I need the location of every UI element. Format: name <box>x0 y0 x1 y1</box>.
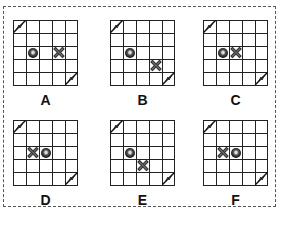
x-mark-icon <box>52 46 65 59</box>
lightning-icon <box>255 172 268 185</box>
x-mark-icon <box>136 159 149 172</box>
option-label: E <box>110 192 175 208</box>
x-mark-icon <box>149 59 162 72</box>
x-mark-icon <box>26 146 39 159</box>
option-label: F <box>203 192 268 208</box>
grid-board <box>13 20 78 86</box>
x-mark-icon <box>216 146 229 159</box>
lightning-icon <box>13 20 26 33</box>
lightning-icon <box>203 120 216 133</box>
option-panel-a[interactable]: A <box>13 20 79 86</box>
ball-icon <box>229 146 242 159</box>
lightning-icon <box>13 120 26 133</box>
lightning-icon <box>110 120 123 133</box>
option-label: C <box>203 92 268 108</box>
lightning-icon <box>65 172 78 185</box>
ball-icon <box>216 46 229 59</box>
ball-icon <box>123 146 136 159</box>
lightning-icon <box>162 72 175 85</box>
ball-icon <box>123 46 136 59</box>
option-panel-e[interactable]: E <box>110 120 176 186</box>
option-label: D <box>13 192 78 208</box>
grid-board <box>110 20 175 86</box>
option-panel-d[interactable]: D <box>13 120 79 186</box>
grid-board <box>203 20 268 86</box>
option-panel-b[interactable]: B <box>110 20 176 86</box>
ball-icon <box>26 46 39 59</box>
grid-board <box>110 120 175 186</box>
grid-board <box>203 120 268 186</box>
option-panel-f[interactable]: F <box>203 120 269 186</box>
grid-board <box>13 120 78 186</box>
x-mark-icon <box>229 46 242 59</box>
option-panel-c[interactable]: C <box>203 20 269 86</box>
ball-icon <box>39 146 52 159</box>
lightning-icon <box>255 72 268 85</box>
lightning-icon <box>203 20 216 33</box>
option-label: B <box>110 92 175 108</box>
lightning-icon <box>110 20 123 33</box>
lightning-icon <box>65 72 78 85</box>
option-label: A <box>13 92 78 108</box>
lightning-icon <box>162 172 175 185</box>
